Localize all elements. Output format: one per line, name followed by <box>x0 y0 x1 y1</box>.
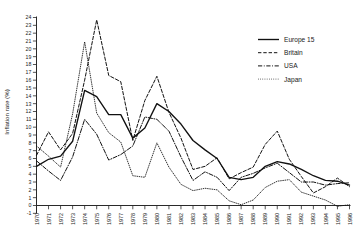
x-tick-label: 1976 <box>106 213 112 225</box>
y-tick-label: 7 <box>28 148 31 154</box>
legend-label-usa: USA <box>284 62 298 69</box>
chart-canvas: -101234567891011121314151617181920212223… <box>0 0 361 240</box>
y-tick-label: 9 <box>28 132 31 138</box>
y-tick-label: 5 <box>28 163 31 169</box>
y-tick-label: -1 <box>27 210 32 216</box>
y-tick-label: 0 <box>28 202 31 208</box>
series-line-usa <box>37 117 350 191</box>
y-tick-label: 1 <box>28 195 31 201</box>
x-tick-label: 1971 <box>46 213 52 225</box>
x-axis: 1970197119721973197419751976197719781979… <box>34 206 353 226</box>
legend-label-europe-15: Europe 15 <box>284 36 315 44</box>
x-tick-label: 1978 <box>130 213 136 225</box>
legend-label-britain: Britain <box>284 49 303 56</box>
inflation-rate-line-chart: -101234567891011121314151617181920212223… <box>0 0 361 240</box>
x-tick-label: 1981 <box>166 213 172 225</box>
x-tick-label: 1995 <box>335 213 341 225</box>
y-tick-label: 18 <box>26 61 32 67</box>
legend: Europe 15BritainUSAJapan <box>258 36 315 84</box>
x-tick-label: 1987 <box>238 213 244 225</box>
y-tick-label: 10 <box>26 124 32 130</box>
y-tick-label: 22 <box>26 30 32 36</box>
y-tick-label: 21 <box>26 38 32 44</box>
y-tick-label: 14 <box>26 93 32 99</box>
legend-label-japan: Japan <box>284 76 302 84</box>
x-tick-label: 1982 <box>178 213 184 225</box>
y-axis-title-text: Inflation rate (%) <box>3 89 10 134</box>
y-tick-label: 19 <box>26 54 32 60</box>
y-tick-label: 24 <box>26 14 32 20</box>
x-tick-label: 1989 <box>262 213 268 225</box>
x-tick-label: 1986 <box>226 213 232 225</box>
y-tick-label: 6 <box>28 155 31 161</box>
x-tick-label: 1970 <box>34 213 40 225</box>
y-tick-label: 12 <box>26 108 32 114</box>
x-tick-label: 1979 <box>142 213 148 225</box>
series-line-europe-15 <box>37 90 350 185</box>
x-tick-label: 1972 <box>58 213 64 225</box>
x-tick-label: 1991 <box>286 213 292 225</box>
y-tick-label: 4 <box>28 171 31 177</box>
x-tick-label: 1983 <box>190 213 196 225</box>
x-tick-label: 1975 <box>94 213 100 225</box>
x-tick-label: 1977 <box>118 213 124 225</box>
y-tick-label: 16 <box>26 77 32 83</box>
x-tick-label: 1980 <box>154 213 160 225</box>
y-tick-label: 11 <box>26 116 31 122</box>
y-axis: -101234567891011121314151617181920212223… <box>26 14 37 216</box>
series-line-britain <box>37 20 350 193</box>
x-tick-label: 1992 <box>298 213 304 225</box>
x-tick-label: 1988 <box>250 213 256 225</box>
x-tick-label: 1974 <box>82 213 88 225</box>
x-tick-label: 1985 <box>214 213 220 225</box>
y-axis-title: Inflation rate (%) <box>3 89 10 134</box>
y-tick-label: 17 <box>26 69 32 75</box>
y-tick-label: 3 <box>28 179 31 185</box>
x-tick-label: 1996 <box>347 213 353 225</box>
x-tick-label: 1973 <box>70 213 76 225</box>
y-tick-label: 23 <box>26 22 32 28</box>
y-tick-label: 15 <box>26 85 32 91</box>
series-group <box>37 20 350 206</box>
y-tick-label: 20 <box>26 46 32 52</box>
y-tick-label: 13 <box>26 101 32 107</box>
y-tick-label: 8 <box>28 140 31 146</box>
x-tick-label: 1993 <box>310 213 316 225</box>
x-tick-label: 1990 <box>274 213 280 225</box>
y-tick-label: 2 <box>28 187 31 193</box>
x-tick-label: 1994 <box>323 213 329 225</box>
x-tick-label: 1984 <box>202 213 208 225</box>
